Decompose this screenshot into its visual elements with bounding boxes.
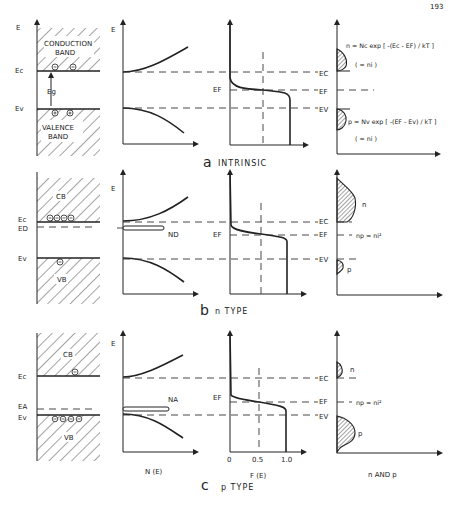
acceptor-density-label: NA	[168, 396, 178, 404]
band-diagram-b: CB VB Ec ED Ev	[18, 172, 100, 304]
ev-label-a: Ev	[15, 105, 24, 113]
fermi-tick-0: 0	[227, 456, 231, 464]
mass-action-law-c: np = ni²	[356, 399, 382, 407]
carrier-concentration-a: EC EF EV n = Nc exp [ -(Ec - EF) / kT ] …	[319, 22, 438, 154]
ev-level-label-a: EV	[319, 106, 328, 114]
caption-text-b: n TYPE	[215, 307, 248, 316]
fermi-tick-1: 1.0	[281, 456, 292, 464]
mass-action-law-b: np = ni²	[356, 232, 382, 240]
ev-label-b: Ev	[18, 255, 27, 263]
valence-band-label: VALENCE	[42, 124, 74, 132]
hole-label-b: p	[347, 266, 352, 274]
energy-axis-label-a: E	[16, 24, 20, 32]
ef-level-label-c: EF	[319, 398, 327, 406]
ef-level-label-b: EF	[319, 231, 327, 239]
carriers-x-axis-label: n AND p	[368, 471, 397, 479]
ed-label-b: ED	[18, 225, 28, 233]
carrier-concentration-c: n p np = ni² EC EF EV n AND p	[319, 333, 440, 479]
fermi-tick-05: 0.5	[252, 456, 263, 464]
fermi-function-b: EF	[213, 172, 304, 294]
fermi-level-label-a: EF	[213, 86, 221, 94]
gap-label: Eg	[47, 88, 56, 96]
band-diagram-a: E CONDUCTION BAND VALENCE BAND Ec Ev Eg	[15, 22, 100, 156]
vb-label-b: VB	[57, 276, 67, 284]
cb-label-c: CB	[63, 351, 73, 359]
electron-concentration-equation: n = Nc exp [ -(Ec - EF) / kT ]	[346, 42, 434, 50]
panel-b-n-type: CB VB Ec ED Ev E ND	[18, 172, 440, 318]
dos-axis-label-a: E	[111, 26, 115, 34]
ec-level-label-c: EC	[319, 375, 328, 383]
ec-level-label-a: EC	[319, 70, 328, 78]
ev-level-label-b: EV	[319, 256, 328, 264]
caption-letter-b: b	[200, 302, 209, 318]
valence-band-label-2: BAND	[48, 133, 68, 141]
electron-intrinsic-note: ( = ni )	[355, 61, 377, 68]
fermi-level-label-c: EF	[213, 394, 221, 402]
semiconductor-band-diagram-figure: 193 E CONDUCTION BAND VALENCE BAND Ec Ev…	[0, 0, 466, 507]
conduction-band-label-2: BAND	[55, 49, 75, 57]
cb-label-b: CB	[56, 193, 66, 201]
ec-label-a: Ec	[15, 67, 23, 75]
page-number: 193	[430, 3, 443, 11]
carrier-concentration-b: n p np = ni² EC EF EV	[319, 172, 440, 295]
caption-letter-a: a	[203, 154, 212, 170]
dos-axis-label-b: E	[111, 185, 115, 193]
density-of-states-c: E NA N (E)	[111, 333, 196, 476]
dos-x-axis-label: N (E)	[145, 468, 163, 476]
caption-text-c: p TYPE	[221, 483, 254, 492]
ec-label-b: Ec	[18, 216, 26, 224]
conduction-band-label: CONDUCTION	[44, 40, 92, 48]
fermi-function-c: EF 0 0.5 1.0 F (E)	[213, 333, 304, 480]
ev-level-label-c: EV	[319, 413, 328, 421]
hole-label-c: p	[358, 430, 363, 438]
vb-label-c: VB	[64, 434, 74, 442]
density-of-states-b: E ND	[111, 172, 196, 294]
fermi-function-a: EF	[213, 22, 306, 145]
electron-label-c: n	[350, 366, 354, 374]
electron-label-b: n	[362, 201, 366, 209]
fermi-level-label-b: EF	[213, 231, 221, 239]
caption-text-a: INTRINSIC	[218, 159, 267, 168]
holes-b	[57, 259, 63, 265]
ef-level-label-a: EF	[319, 88, 327, 96]
hole-intrinsic-note: ( = ni )	[355, 135, 377, 142]
hole-concentration-equation: p = Nv exp [ -(EF - Ev) / kT ]	[348, 118, 437, 126]
donor-density-label: ND	[168, 231, 179, 239]
ea-label-c: EA	[18, 403, 27, 411]
fermi-x-axis-label: F (E)	[250, 472, 266, 480]
ec-level-label-b: EC	[319, 218, 328, 226]
ec-label-c: Ec	[18, 373, 26, 381]
electrons-c	[72, 369, 78, 375]
ev-label-c: Ev	[18, 414, 27, 422]
panel-a-intrinsic: E CONDUCTION BAND VALENCE BAND Ec Ev Eg …	[15, 22, 438, 170]
density-of-states-a: E	[111, 22, 196, 144]
panel-c-p-type: CB VB Ec EA Ev E NA N (E)	[18, 333, 440, 493]
dos-axis-label-c: E	[111, 340, 115, 348]
band-diagram-c: CB VB Ec EA Ev	[18, 333, 100, 461]
caption-letter-c: c	[201, 477, 209, 493]
